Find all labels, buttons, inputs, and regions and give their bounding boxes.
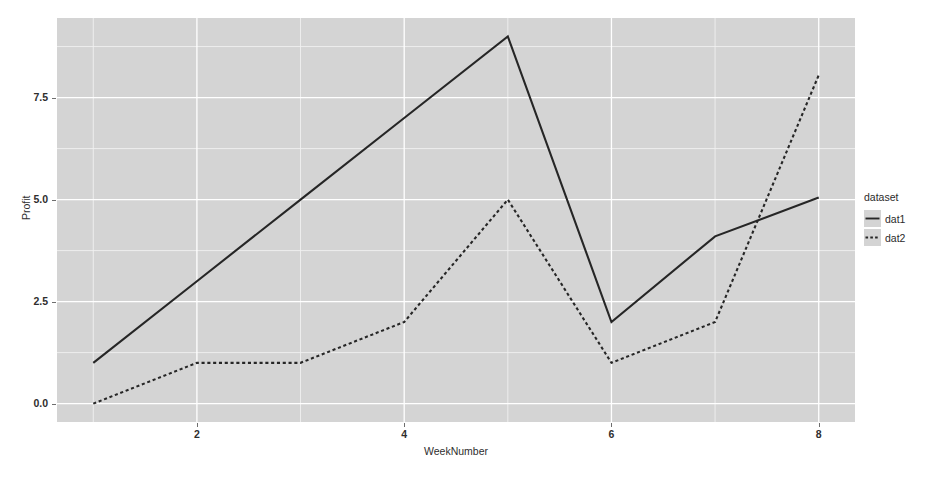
x-tick-label: 8 <box>799 428 839 440</box>
major-gridlines <box>57 18 855 422</box>
x-tick-mark <box>197 423 198 427</box>
solid-line-key-icon <box>864 210 881 227</box>
x-tick-label: 6 <box>591 428 631 440</box>
chart-figure: 0.02.55.07.5 2468 WeekNumber Profit data… <box>0 0 931 480</box>
x-tick-mark <box>404 423 405 427</box>
y-tick-mark <box>52 302 56 303</box>
y-tick-label: 2.5 <box>0 295 48 307</box>
legend-label-dat2: dat2 <box>885 232 905 244</box>
y-tick-label: 0.0 <box>0 397 48 409</box>
series-lines <box>93 36 818 403</box>
plot-panel <box>57 18 855 422</box>
x-tick-mark <box>819 423 820 427</box>
x-tick-label: 2 <box>177 428 217 440</box>
legend: dataset dat1 dat2 <box>864 191 930 248</box>
minor-gridlines <box>57 18 855 422</box>
x-tick-mark <box>611 423 612 427</box>
x-tick-label: 4 <box>384 428 424 440</box>
x-axis-title: WeekNumber <box>0 445 912 457</box>
y-tick-mark <box>52 98 56 99</box>
y-tick-mark <box>52 404 56 405</box>
dashed-line-key-icon <box>864 229 881 246</box>
plot-area-svg <box>57 18 855 422</box>
legend-entry-dat1[interactable]: dat1 <box>864 210 930 227</box>
y-tick-mark <box>52 200 56 201</box>
y-axis-title: Profit <box>20 195 32 220</box>
legend-title: dataset <box>864 191 930 203</box>
legend-label-dat1: dat1 <box>885 213 905 225</box>
y-tick-label: 7.5 <box>0 91 48 103</box>
legend-entry-dat2[interactable]: dat2 <box>864 229 930 246</box>
